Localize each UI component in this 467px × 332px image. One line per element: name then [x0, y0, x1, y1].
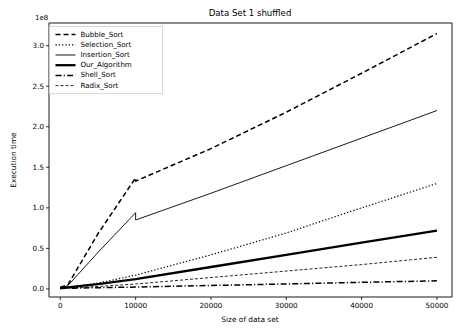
- y-tick-label: 0.0: [33, 284, 45, 293]
- legend-label-selection-sort[interactable]: Selection_Sort: [81, 40, 132, 49]
- x-tick-label: 40000: [350, 301, 373, 310]
- legend-label-insertion-sort[interactable]: Insertion_Sort: [81, 50, 130, 59]
- line-chart: Data Set 1 shuffled 1e8 0100002000030000…: [0, 0, 467, 332]
- x-tick-label: 50000: [425, 301, 448, 310]
- legend-label-our-algorithm[interactable]: Our_Algorithm: [81, 60, 132, 69]
- y-tick-label: 0.5: [33, 244, 44, 253]
- y-tick-label: 1.0: [33, 203, 45, 212]
- page-title: Data Set 1 shuffled: [209, 8, 292, 18]
- chart-legend[interactable]: Bubble_SortSelection_SortInsertion_SortO…: [50, 27, 163, 94]
- legend-label-radix-sort[interactable]: Radix_Sort: [81, 81, 119, 90]
- y-tick-label: 3.0: [33, 41, 45, 50]
- x-tick-label: 20000: [200, 301, 223, 310]
- y-axis-title: Execution time: [9, 132, 18, 188]
- y-axis-offset-label: 1e8: [35, 14, 48, 22]
- legend-label-shell-sort[interactable]: Shell_Sort: [81, 70, 117, 79]
- x-tick-label: 0: [58, 301, 63, 310]
- chart-figure: Data Set 1 shuffled 1e8 0100002000030000…: [0, 0, 467, 332]
- y-tick-label: 1.5: [33, 163, 44, 172]
- x-tick-label: 10000: [124, 301, 147, 310]
- x-tick-label: 30000: [275, 301, 298, 310]
- y-tick-label: 2.5: [33, 82, 44, 91]
- legend-label-bubble-sort[interactable]: Bubble_Sort: [81, 30, 124, 39]
- x-axis-title: Size of data set: [221, 315, 278, 324]
- y-tick-label: 2.0: [33, 122, 45, 131]
